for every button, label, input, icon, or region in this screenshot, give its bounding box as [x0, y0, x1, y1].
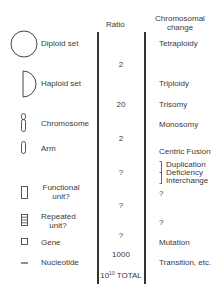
level-label-haploid-set: Haploid set [41, 79, 81, 88]
half-circle-icon [22, 70, 38, 98]
change-functional-unknown: ? [159, 189, 163, 198]
level-label-repeated-unit: Repeated unit? [41, 212, 75, 230]
total-base: 10 [100, 271, 109, 280]
change-repeated-unknown: ? [159, 218, 163, 227]
header-ratio: Ratio [106, 20, 125, 29]
change-tetraploidy: Tetraploidy [159, 39, 198, 48]
rectangle-icon [21, 186, 29, 200]
change-transition: Transition, etc. [159, 258, 211, 267]
change-mutation: Mutation [159, 238, 190, 247]
striped-rectangle-icon [21, 214, 29, 227]
change-triploidy: Triploidy [159, 79, 189, 88]
ratio-value: 2 [98, 60, 144, 69]
change-interchange: Interchange [166, 176, 208, 185]
level-label-chromosome: Chromosome [41, 119, 89, 128]
header-chromosomal-change: Chromosomal change [150, 14, 210, 32]
ratio-value: ? [98, 231, 144, 240]
change-centric-fusion: Centric Fusion [159, 147, 211, 156]
circle-icon [10, 30, 38, 58]
bracket-icon [159, 161, 164, 185]
chromosome-icon [21, 113, 27, 133]
ratio-value: 20 [98, 100, 144, 109]
ratio-value: ? [98, 201, 144, 210]
ratio-value: ? [98, 168, 144, 177]
small-square-icon [21, 238, 29, 246]
chromosome-arm-icon [21, 141, 27, 155]
total-exponent: 10 [109, 270, 115, 276]
level-label-diploid-set: Diploid set [41, 39, 78, 48]
dash-icon [21, 262, 29, 265]
level-label-functional-unit: Functional unit? [41, 183, 81, 201]
ratio-column-left-divider [97, 32, 99, 284]
change-trisomy: Trisomy [159, 100, 187, 109]
change-monosomy: Monosomy [159, 120, 198, 129]
ratio-value: 2 [98, 134, 144, 143]
total-label: TOTAL [117, 271, 142, 280]
level-label-nucleotide: Nucleotide [41, 258, 79, 267]
ratio-value: 1000 [98, 250, 144, 259]
level-label-gene: Gene [41, 238, 61, 247]
ratio-total: 1010 TOTAL [98, 271, 144, 280]
level-label-arm: Arm [41, 144, 56, 153]
ratio-column-right-divider [144, 32, 146, 284]
